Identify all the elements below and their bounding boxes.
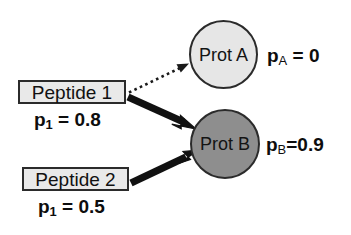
peptide-2-probability-equals: =	[62, 196, 73, 217]
peptide-2-probability-subscript: 1	[50, 204, 57, 219]
protein-b-probability-subscript: B	[278, 142, 287, 157]
edge-peptide1-protb	[128, 97, 196, 129]
edge-peptide2-protb-line	[131, 157, 186, 183]
edge-peptide2-protb	[131, 150, 199, 183]
protein-a-probability-symbol: p	[267, 45, 279, 66]
protein-a-probability-equals: =	[293, 45, 304, 66]
peptide-1-probability-equals: =	[58, 109, 69, 130]
peptide-2-probability-value: 0.5	[78, 196, 104, 217]
peptide-1-probability: p1 = 0.8	[34, 110, 101, 132]
protein-b-probability-symbol: p	[266, 134, 278, 155]
protein-a-node[interactable]: Prot A	[189, 20, 258, 89]
protein-a-probability: pA = 0	[267, 46, 319, 68]
diagram-canvas: Peptide 1 p1 = 0.8 Peptide 2 p1 = 0.5 Pr…	[0, 0, 351, 235]
protein-a-probability-subscript: A	[279, 53, 288, 68]
edge-peptide1-prota-line	[129, 68, 180, 93]
protein-b-node[interactable]: Prot B	[190, 109, 260, 179]
peptide-2-probability-symbol: p	[38, 196, 50, 217]
edge-peptide1-prota	[129, 64, 189, 93]
protein-a-label: Prot A	[199, 46, 248, 64]
protein-b-probability-value: 0.9	[297, 134, 323, 155]
peptide-1-label: Peptide 1	[32, 83, 112, 102]
protein-b-probability-equals: =	[286, 134, 297, 155]
edge-peptide1-protb-line	[128, 97, 184, 122]
protein-b-label: Prot B	[200, 135, 250, 153]
peptide-1-probability-value: 0.8	[74, 109, 100, 130]
peptide-2-label: Peptide 2	[35, 170, 115, 189]
peptide-2-probability: p1 = 0.5	[38, 197, 105, 219]
peptide-1-probability-subscript: 1	[46, 117, 53, 132]
peptide-2-box[interactable]: Peptide 2	[22, 167, 129, 191]
peptide-1-probability-symbol: p	[34, 109, 46, 130]
peptide-1-box[interactable]: Peptide 1	[18, 80, 126, 104]
protein-a-probability-value: 0	[309, 45, 320, 66]
protein-b-probability: pB=0.9	[266, 135, 324, 157]
